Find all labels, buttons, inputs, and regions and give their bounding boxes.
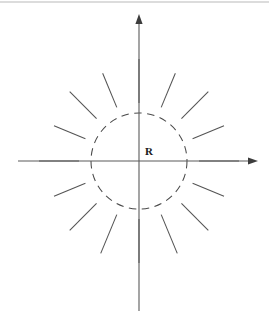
ray-157 <box>54 126 85 139</box>
ray-22 <box>193 126 224 139</box>
ray-45 <box>181 92 208 119</box>
ray-67 <box>161 73 175 107</box>
ray-247 <box>101 215 117 254</box>
ray-202 <box>54 183 85 196</box>
ray-225 <box>70 203 97 230</box>
radius-label: R <box>145 146 153 157</box>
ray-337 <box>193 183 224 196</box>
horizontal-axis-arrow-icon <box>248 157 258 164</box>
ray-112 <box>103 73 117 107</box>
diagram-canvas <box>0 0 269 325</box>
sun-radius-diagram: R <box>0 0 269 325</box>
ray-292 <box>161 215 177 254</box>
ray-315 <box>181 203 208 230</box>
ray-135 <box>70 92 97 119</box>
vertical-axis-arrow-icon <box>135 14 142 24</box>
